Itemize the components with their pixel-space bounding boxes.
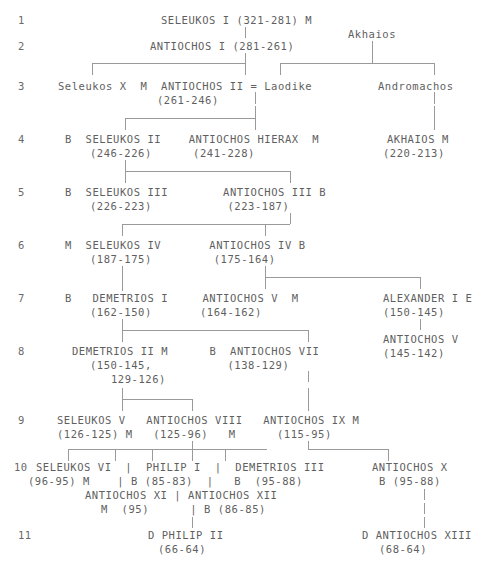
- dates-row7-main: (162-150) (164-162): [90, 306, 262, 318]
- person-philip-ii: D PHILIP II: [148, 529, 224, 541]
- person-antiochos-x: ANTIOCHOS X: [372, 461, 448, 473]
- person-row3-main: Seleukos X M ANTIOCHOS II = Laodike: [58, 80, 312, 92]
- connector-v-seleukos-iii: [125, 171, 126, 183]
- connector-v-g9-g10-stub-right: [308, 441, 309, 449]
- connector-v-g10-g11: [192, 517, 193, 528]
- dates-row5-main: (226-223) (223-187): [90, 200, 289, 212]
- connector-v-antiochos-viii: [192, 399, 193, 411]
- connector-v-akhaios-m: [434, 118, 435, 130]
- person-row5-main: B SELEUKOS III ANTIOCHOS III B: [65, 186, 326, 198]
- person-row9-main: SELEUKOS V ANTIOCHOS VIII ANTIOCHOS IX M: [57, 414, 359, 426]
- dates-alexander-i: (150-145): [383, 306, 445, 318]
- connector-v-g8-g9-stub: [122, 388, 123, 399]
- connector-v-andromachos-down2: [434, 106, 435, 118]
- connector-v-demetrios-iii: [225, 449, 226, 461]
- connector-h-g8-g9: [122, 399, 192, 400]
- connector-v-antiochos-x-down3: [424, 517, 425, 528]
- connector-v-g2-g3: [245, 53, 246, 75]
- connector-v-andromachos-down1: [434, 92, 435, 104]
- row-number-5: 5: [18, 186, 25, 198]
- connector-v-antiochos-iii: [290, 171, 291, 183]
- connector-h-g4-g5: [125, 171, 290, 172]
- person-row4-main: B SELEUKOS II ANTIOCHOS HIERAX M: [65, 133, 319, 145]
- connector-h-g2-g3-left: [92, 63, 246, 64]
- connector-v-antiochos-xi-branch: [115, 449, 116, 461]
- connector-v-demetrios-i: [122, 266, 123, 291]
- row-number-2: 2: [18, 40, 25, 52]
- connector-h-g6-g7: [265, 277, 420, 278]
- connector-v-antiochos-vii-down1: [308, 371, 309, 382]
- dates-antiochos-v-lower: (145-142): [383, 347, 445, 359]
- connector-v-antiochos-v: [265, 277, 266, 289]
- dates-antiochos-x: B (95-88): [379, 475, 441, 487]
- dates-antiochos-xiii: (68-64): [379, 543, 427, 555]
- person-row10-second: ANTIOCHOS XI | ANTIOCHOS XII: [85, 489, 277, 501]
- connector-v-g6-g7-stub: [265, 266, 266, 277]
- dates-row6-main: (187-175) (175-164): [90, 253, 276, 265]
- connector-v-antiochos-vii: [308, 330, 309, 342]
- person-antiochos-v-lower: ANTIOCHOS V: [383, 333, 459, 345]
- connector-h-g9-g10-c: [308, 449, 388, 450]
- person-antiochos-xiii: D ANTIOCHOS XIII: [362, 529, 472, 541]
- row-number-7: 7: [18, 292, 25, 304]
- connector-v-antiochos-xii-branch: [192, 449, 193, 461]
- connector-v-antiochos-x-down1: [424, 489, 425, 500]
- connector-v-antiochos-x-down2: [424, 503, 425, 514]
- row-number-4: 4: [18, 133, 25, 145]
- person-row8-main: DEMETRIOS II M B ANTIOCHOS VII: [72, 345, 319, 357]
- connector-v-g4-g5-stub: [125, 160, 126, 171]
- connector-v-g5-g6-stub: [290, 213, 291, 224]
- person-row10-main: SELEUKOS VI | PHILIP I | DEMETRIOS III: [36, 461, 325, 473]
- person-akhaios-elder: Akhaios: [348, 28, 396, 40]
- connector-v-seleukos-v: [122, 399, 123, 411]
- connector-h-akhaios-left: [280, 63, 372, 64]
- connector-h-g3-g4: [125, 118, 256, 119]
- connector-v-alexander-i: [420, 277, 421, 289]
- connector-h-akhaios-right: [372, 63, 434, 64]
- connector-v-antiochos-vii-down2: [308, 388, 309, 411]
- person-seleukos-i: SELEUKOS I (321-281) M: [161, 14, 312, 26]
- row-number-3: 3: [18, 80, 25, 92]
- dates-antiochos-ii: (261-246): [157, 94, 219, 106]
- connector-v-g7-g8-stub: [122, 319, 123, 330]
- row-number-1: 1: [18, 14, 25, 26]
- connector-v-seleukos-iv: [122, 224, 123, 236]
- person-akhaios-m: AKHAIOS M: [387, 133, 449, 145]
- connector-v-antiochos-iv: [265, 224, 266, 236]
- person-row7-main: B DEMETRIOS I ANTIOCHOS V M: [65, 292, 299, 304]
- person-andromachos: Andromachos: [378, 80, 454, 92]
- row-number-8: 8: [18, 345, 25, 357]
- dates-demetrios-ii-second: 129-126): [111, 373, 166, 385]
- connector-v-andromachos: [434, 63, 435, 75]
- dates-row10-second: M (95) | B (86-85): [101, 503, 266, 515]
- connector-v-marriage: [255, 92, 256, 104]
- connector-v-antiochos-x: [388, 449, 389, 461]
- connector-v-seleukos-vi: [68, 449, 69, 461]
- row-number-9: 9: [18, 414, 25, 426]
- connector-v-seleukos-x: [92, 63, 93, 75]
- person-row6-main: M SELEUKOS IV ANTIOCHOS IV B: [65, 239, 306, 251]
- connector-v-g3-g4: [255, 106, 256, 118]
- person-alexander-i: ALEXANDER I E: [383, 292, 472, 304]
- connector-v-laodike: [280, 63, 281, 75]
- row-number-10: 10: [14, 461, 28, 473]
- connector-v-seleukos-ii: [125, 118, 126, 130]
- connector-v-g1-g2: [245, 27, 246, 38]
- row-number-6: 6: [18, 239, 25, 251]
- dates-row8-main: (150-145, (138-129): [90, 359, 289, 371]
- dates-row4-main: (246-226) (241-228): [90, 147, 255, 159]
- connector-v-demetrios-ii: [122, 330, 123, 342]
- connector-v-alexander-to-antiochosv: [420, 319, 421, 330]
- dates-philip-ii: (66-64): [158, 543, 206, 555]
- row-number-11: 11: [18, 529, 32, 541]
- person-antiochos-i: ANTIOCHOS I (281-261): [150, 40, 294, 52]
- dates-row9-main: (126-125) M (125-96) M (115-95): [57, 428, 332, 440]
- dates-row10-main: (96-95) M | B (85-83) | B (95-88): [28, 475, 303, 487]
- genealogy-chart: 1 2 3 4 5 6 7 8 9 10 11 SELEUKOS I (321-…: [0, 0, 489, 563]
- connector-v-philip-i: [152, 449, 153, 461]
- connector-h-g9-g10-b: [192, 449, 267, 450]
- connector-v-antiochos-hierax: [255, 118, 256, 130]
- connector-h-g7-g8: [122, 330, 308, 331]
- dates-akhaios-m: (220-213): [383, 147, 445, 159]
- connector-v-akhaios: [372, 41, 373, 63]
